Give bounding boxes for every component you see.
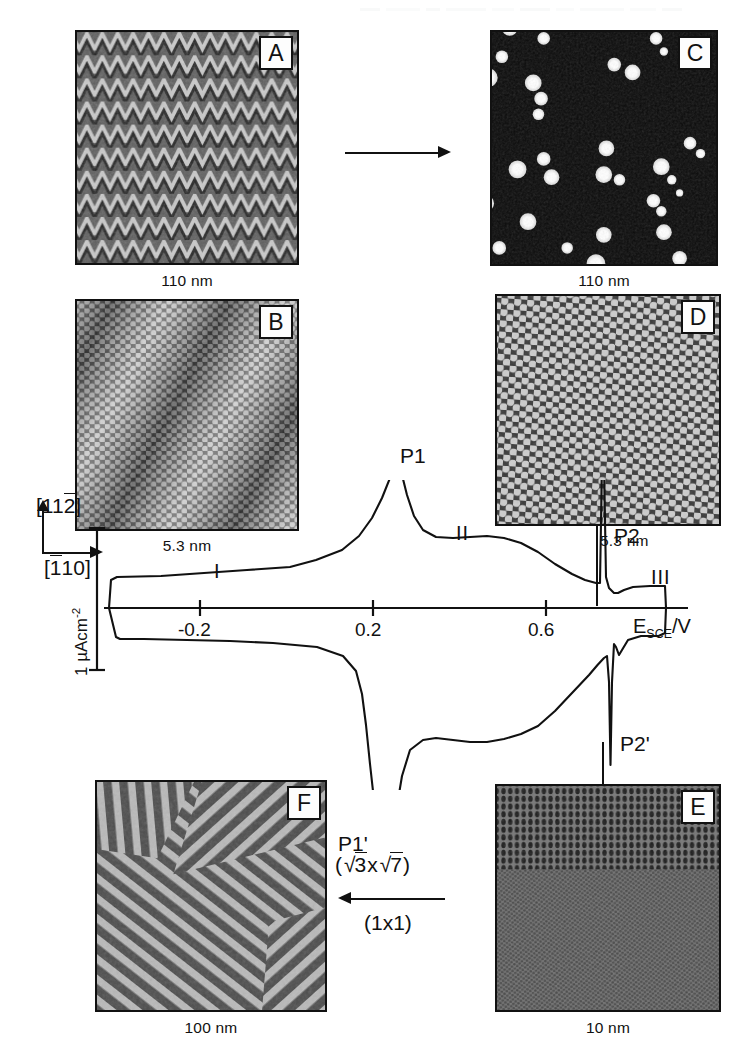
panel-letter-f: F [287, 786, 321, 820]
stm-panel-f[interactable]: F [95, 780, 327, 1012]
stm-panel-e[interactable]: E [495, 784, 721, 1012]
cv-x-axis-label: ESCE/V [633, 615, 691, 641]
reconstruction-label-root: (3x7) [335, 852, 410, 877]
reconstruction-label-1x1: (1x1) [364, 911, 412, 935]
cv-xtick-label-0: -0.2 [178, 619, 211, 641]
panel-letter-b: B [259, 305, 293, 339]
cv-y-unit: µAcm [72, 618, 91, 662]
figure-canvas: A 110 nm [0, 0, 750, 1059]
panel-letter-e: E [681, 790, 715, 824]
cv-x-sub: SCE [646, 627, 672, 641]
panel-letter-c: C [678, 36, 712, 70]
stm-panel-a[interactable]: A [75, 30, 299, 265]
cv-region-label-i: I [214, 560, 221, 583]
cv-xtick-label-2: 0.6 [528, 619, 554, 641]
cv-region-label-ii: II [456, 522, 469, 545]
panel-a-scale: 110 nm [75, 272, 299, 290]
cv-xtick-label-1: 0.2 [355, 619, 381, 641]
cv-annotation-p2: P2 [614, 524, 640, 548]
cv-x-base: E [633, 615, 646, 637]
panel-letter-d: D [681, 300, 715, 334]
panel-letter-a: A [259, 36, 293, 70]
p2prime-leader-line [602, 742, 604, 786]
page-header-artifact [360, 2, 690, 14]
cv-annotation-p1: P1 [400, 444, 426, 468]
cyclic-voltammogram[interactable]: 1 µAcm-2 -0.2 0.2 0.6 ESCE/V P1 P2 P1' P… [96, 480, 696, 790]
cv-y-exponent: -2 [70, 608, 82, 618]
panel-e-scale: 10 nm [495, 1019, 721, 1037]
cv-y-value: 1 [72, 667, 91, 676]
cv-annotation-p2p: P2' [620, 732, 650, 756]
direction-label-112: [112] [36, 494, 81, 518]
cv-anodic-trace [109, 480, 666, 608]
cv-x-tail: /V [672, 615, 691, 637]
panel-f-scale: 100 nm [95, 1019, 327, 1037]
panel-c-scale: 110 nm [490, 272, 718, 290]
cv-y-axis-label: 1 µAcm-2 [70, 608, 92, 676]
cv-region-label-iii: III [651, 566, 671, 589]
stm-panel-c[interactable]: C [490, 30, 718, 266]
